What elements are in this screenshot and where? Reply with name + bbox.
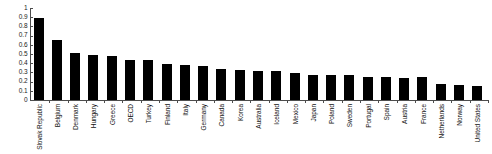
x-axis-tick-mark bbox=[250, 100, 251, 103]
x-axis-tick-mark bbox=[86, 100, 87, 103]
bar[interactable] bbox=[235, 70, 245, 100]
bar[interactable] bbox=[216, 69, 226, 100]
bar-slot bbox=[397, 8, 414, 100]
bar[interactable] bbox=[198, 66, 208, 100]
bar-slot bbox=[378, 8, 395, 100]
bar[interactable] bbox=[162, 64, 172, 100]
bar[interactable] bbox=[70, 53, 80, 100]
x-axis-label-slot: Hungary bbox=[86, 104, 103, 154]
x-axis-label-text: Belgium bbox=[54, 104, 61, 127]
x-axis-tick-mark bbox=[196, 100, 197, 103]
bar[interactable] bbox=[436, 84, 446, 100]
x-axis-tick-mark bbox=[177, 100, 178, 103]
x-axis-tick-mark bbox=[305, 100, 306, 103]
bar-slot bbox=[250, 8, 267, 100]
x-axis-label-text: Japan bbox=[310, 104, 317, 121]
x-axis-label-slot: Canada bbox=[214, 104, 231, 154]
bar[interactable] bbox=[271, 71, 281, 100]
y-axis-tick-text: 0.9 bbox=[19, 14, 30, 21]
bar-slot bbox=[305, 8, 322, 100]
x-axis-label-text: Mexico bbox=[292, 104, 299, 124]
x-axis-label-text: Hungary bbox=[91, 104, 98, 128]
bar[interactable] bbox=[107, 56, 117, 100]
bar-slot bbox=[49, 8, 66, 100]
x-axis-tick-mark bbox=[451, 100, 452, 103]
bar-slot bbox=[196, 8, 213, 100]
bar-slot bbox=[122, 8, 139, 100]
bar[interactable] bbox=[472, 86, 482, 100]
x-axis-label-slot: Sweden bbox=[342, 104, 359, 154]
bar-slot bbox=[214, 8, 231, 100]
x-axis-label-text: Sweden bbox=[347, 104, 354, 127]
x-axis-label-slot: Portugal bbox=[360, 104, 377, 154]
x-axis-tick-mark bbox=[49, 100, 50, 103]
bar[interactable] bbox=[180, 65, 190, 100]
bar-slot bbox=[287, 8, 304, 100]
bar[interactable] bbox=[308, 75, 318, 100]
x-axis-tick-mark bbox=[378, 100, 379, 103]
bar[interactable] bbox=[253, 71, 263, 100]
bar[interactable] bbox=[290, 73, 300, 100]
x-axis-tick-mark bbox=[141, 100, 142, 103]
bar[interactable] bbox=[143, 60, 153, 100]
bar-chart: 10.90.80.70.60.50.40.30.20.10 Slovak Rep… bbox=[0, 0, 492, 154]
x-axis-label-text: OECD bbox=[127, 104, 134, 123]
y-axis-tick-text: 0.5 bbox=[19, 51, 30, 58]
bar[interactable] bbox=[381, 77, 391, 100]
bar-slot bbox=[104, 8, 121, 100]
x-axis-tick-mark bbox=[360, 100, 361, 103]
x-axis-tick-mark bbox=[433, 100, 434, 103]
x-axis-label-text: Slovak Republic bbox=[36, 104, 43, 150]
bar[interactable] bbox=[125, 60, 135, 100]
x-axis-label-slot: Mexico bbox=[287, 104, 304, 154]
x-axis-tick-mark bbox=[104, 100, 105, 103]
y-axis-tick-text: 0.7 bbox=[19, 32, 30, 39]
x-axis-label-slot: Japan bbox=[305, 104, 322, 154]
x-axis-label-text: Denmark bbox=[73, 104, 80, 130]
bar-slot bbox=[415, 8, 432, 100]
bar-slot bbox=[232, 8, 249, 100]
bar-slot bbox=[68, 8, 85, 100]
x-axis-label-text: Germany bbox=[201, 104, 208, 130]
x-axis-line bbox=[30, 100, 488, 101]
bar[interactable] bbox=[417, 77, 427, 100]
x-axis-tick-mark bbox=[122, 100, 123, 103]
x-axis-label-text: Italy bbox=[182, 104, 189, 116]
y-axis-tick-text: 0.8 bbox=[19, 23, 30, 30]
x-axis-tick-mark bbox=[159, 100, 160, 103]
x-axis-label-slot: Slovak Republic bbox=[31, 104, 48, 154]
x-axis-label-text: United States bbox=[475, 104, 482, 150]
bar-slot bbox=[433, 8, 450, 100]
bar[interactable] bbox=[399, 78, 409, 100]
bar-slot bbox=[141, 8, 158, 100]
y-axis-tick-text: 0.2 bbox=[19, 78, 30, 85]
bar[interactable] bbox=[326, 75, 336, 100]
bar[interactable] bbox=[344, 75, 354, 100]
bar[interactable] bbox=[363, 77, 373, 100]
x-axis-label-slot: United States bbox=[470, 104, 487, 154]
bar[interactable] bbox=[52, 40, 62, 100]
x-axis-label-text: Finland bbox=[164, 104, 171, 125]
x-axis-label-text: Austria bbox=[402, 104, 409, 124]
y-axis-tick-text: 0.6 bbox=[19, 42, 30, 49]
x-axis-label-slot: Korea bbox=[232, 104, 249, 154]
x-axis-label-slot: Belgium bbox=[49, 104, 66, 154]
x-axis-label-slot: France bbox=[415, 104, 432, 154]
x-axis-label-text: Korea bbox=[237, 104, 244, 121]
x-axis-label-slot: Turkey bbox=[141, 104, 158, 154]
x-axis-label-text: Canada bbox=[219, 104, 226, 126]
x-axis-label-slot: Iceland bbox=[269, 104, 286, 154]
bar-slot bbox=[269, 8, 286, 100]
bar[interactable] bbox=[88, 55, 98, 100]
bar[interactable] bbox=[454, 85, 464, 100]
bar-slot bbox=[86, 8, 103, 100]
bar[interactable] bbox=[34, 18, 44, 100]
x-axis-tick-mark bbox=[488, 100, 489, 103]
x-axis-tick-mark bbox=[269, 100, 270, 103]
bar-slot bbox=[159, 8, 176, 100]
x-axis-label-text: France bbox=[420, 104, 427, 124]
x-axis-label-slot: Austria bbox=[397, 104, 414, 154]
x-axis-label-slot: OECD bbox=[122, 104, 139, 154]
x-axis-tick-mark bbox=[214, 100, 215, 103]
x-axis-label-text: Portugal bbox=[365, 104, 372, 128]
